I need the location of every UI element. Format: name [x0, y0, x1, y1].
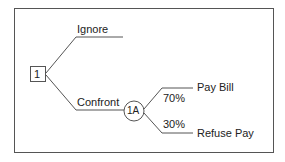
decision-node-label: 1: [34, 69, 40, 80]
confront-label: Confront: [77, 97, 119, 108]
pay-bill-probability: 70%: [163, 93, 185, 104]
refuse-pay-probability: 30%: [163, 119, 185, 130]
ignore-label: Ignore: [77, 24, 108, 35]
refuse-pay-label: Refuse Pay: [197, 128, 254, 139]
chance-node-label: 1A: [127, 106, 139, 116]
ignore-branch-line: [46, 37, 123, 73]
pay-bill-label: Pay Bill: [197, 82, 234, 93]
